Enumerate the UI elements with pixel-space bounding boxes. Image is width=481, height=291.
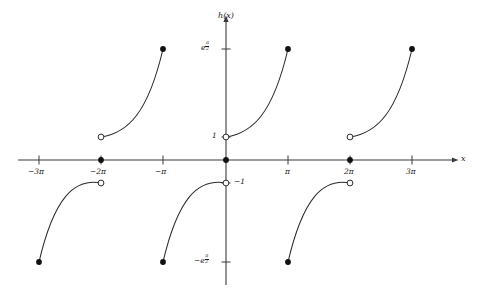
y-tick-label-one: 1: [212, 132, 217, 140]
open-point-zero-one: [223, 134, 229, 140]
y-tick-label-neg-exp-pi-over-2: −eπ2: [194, 256, 209, 267]
y-tick-label-exp-pi-over-2: eπ2: [201, 43, 209, 54]
x-axis: [18, 156, 459, 165]
function-graph-figure: h(x) x −3π −2π −π π 2π 3π eπ2 1 −1 −eπ2: [0, 0, 481, 291]
plot-canvas: [0, 0, 481, 291]
open-point-neg2pi-one: [98, 134, 104, 140]
upper-branch-left: [101, 49, 163, 137]
x-tick-label-negpi: −π: [155, 168, 166, 176]
filled-point-2pi-axis: [347, 157, 353, 163]
filled-point-neg3pi-bot: [36, 259, 42, 265]
filled-point-neg-pi-top: [160, 46, 166, 52]
x-tick-label-neg3pi: −3π: [28, 168, 44, 176]
open-point-neg2pi-negone: [98, 180, 104, 186]
upper-branch-center: [226, 49, 288, 137]
y-axis-label: h(x): [218, 12, 234, 20]
x-tick-label-neg2pi: −2π: [90, 168, 106, 176]
exponent-fraction-upper: π2: [205, 41, 209, 52]
open-point-zero-negone: [223, 180, 229, 186]
x-tick-label-pi: π: [285, 168, 290, 176]
y-tick-label-neg-one: −1: [234, 178, 245, 186]
filled-point-neg2pi-axis: [98, 157, 104, 163]
filled-point-neg-pi-bot: [160, 259, 166, 265]
y-tick-base-lower: −e: [194, 256, 205, 265]
open-point-2pi-one: [347, 134, 353, 140]
exponent-fraction-lower: π2: [205, 254, 209, 265]
x-tick-label-2pi: 2π: [344, 168, 354, 176]
lower-branch-center: [163, 182, 226, 262]
x-axis-label: x: [461, 155, 466, 163]
lower-branch-right: [288, 182, 350, 262]
filled-point-3pi-top: [409, 46, 415, 52]
filled-point-origin-axis: [223, 157, 229, 163]
upper-branch-right: [350, 49, 412, 137]
open-point-2pi-negone: [347, 180, 353, 186]
filled-point-pi-top: [285, 46, 291, 52]
lower-branch-left: [39, 182, 101, 262]
y-axis: [222, 16, 231, 286]
x-tick-label-3pi: 3π: [406, 168, 416, 176]
filled-point-pi-bot: [285, 259, 291, 265]
